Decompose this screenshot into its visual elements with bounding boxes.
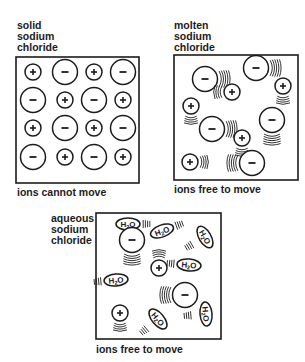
motion-lines-icon <box>175 221 184 230</box>
water-molecule-icon: H2O <box>194 224 216 251</box>
sodium-ion-icon <box>115 92 131 108</box>
sodium-ion-icon <box>214 84 240 100</box>
svg-text:H2O: H2O <box>200 306 211 322</box>
motion-lines-icon <box>263 134 280 145</box>
chloride-ion-icon <box>120 228 145 266</box>
motion-lines-icon <box>200 155 208 169</box>
sodium-ion-icon <box>182 154 208 170</box>
chloride-ion-icon <box>244 56 282 81</box>
motion-lines-icon <box>160 286 171 303</box>
motion-lines-icon <box>184 311 191 319</box>
water-molecule-icon: H2O <box>149 221 176 240</box>
chloride-ion-icon <box>200 117 238 142</box>
sodium-ion-icon <box>86 64 102 80</box>
motion-lines-icon <box>139 326 149 336</box>
chloride-ion-icon <box>111 116 136 141</box>
svg-text:H2O: H2O <box>108 275 124 286</box>
motion-lines-icon <box>227 154 238 171</box>
chloride-ion-icon <box>53 60 78 85</box>
molten-panel <box>174 55 298 180</box>
sodium-ion-icon <box>151 250 167 276</box>
water-molecule-icon: H2O <box>177 258 202 272</box>
sodium-ion-icon <box>57 149 73 165</box>
aqueous-panel: H2OH2OH2OH2OH2OH2OH2O <box>94 213 221 339</box>
motion-lines-icon <box>184 116 198 124</box>
water-molecule-icon: H2O <box>104 273 129 287</box>
chloride-ion-icon <box>21 88 46 113</box>
chloride-ion-icon <box>227 151 265 176</box>
motion-lines-icon <box>94 277 101 285</box>
chloride-ion-icon <box>111 60 136 85</box>
chloride-ion-icon <box>160 283 198 308</box>
motion-lines-icon <box>276 96 290 104</box>
sodium-ion-icon <box>183 98 199 124</box>
sodium-ion-icon <box>57 92 73 108</box>
water-molecule-icon: H2O <box>199 302 213 327</box>
motion-lines-icon <box>113 323 127 331</box>
sodium-ion-icon <box>115 149 131 165</box>
sodium-ion-icon <box>86 120 102 136</box>
chloride-ion-icon <box>260 108 285 146</box>
ion-diagram: H2OH2OH2OH2OH2OH2OH2O <box>0 0 305 362</box>
chloride-ion-icon <box>53 116 78 141</box>
sodium-ion-icon <box>25 64 41 80</box>
sodium-ion-icon <box>25 120 41 136</box>
sodium-ion-icon <box>275 78 291 104</box>
motion-lines-icon <box>185 241 194 250</box>
motion-lines-icon <box>167 260 174 268</box>
solid-panel <box>16 57 139 183</box>
chloride-ion-icon <box>82 145 107 170</box>
motion-lines-icon <box>270 59 281 76</box>
chloride-ion-icon <box>82 88 107 113</box>
sodium-ion-icon <box>112 305 128 331</box>
motion-lines-icon <box>152 250 166 258</box>
water-molecule-icon: H2O <box>146 306 171 332</box>
motion-lines-icon <box>143 220 150 228</box>
motion-lines-icon <box>123 254 140 265</box>
chloride-ion-icon <box>21 145 46 170</box>
